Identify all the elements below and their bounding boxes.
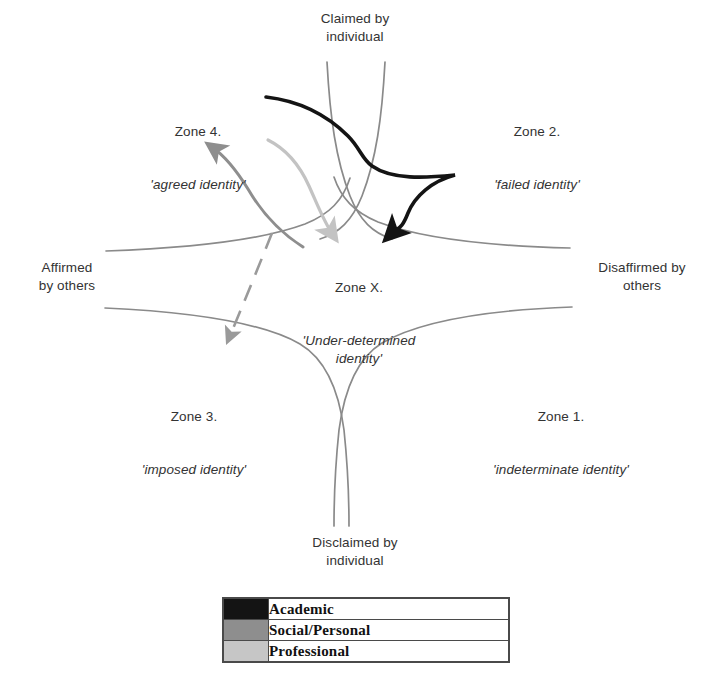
identity-zones-diagram: Claimed by individual Disclaimed by indi… [0, 0, 711, 691]
legend-label-professional: Professional [269, 641, 509, 662]
zone-2-label: Zone 2. 'failed identity' [468, 87, 606, 230]
zone-2-name: Zone 2. [468, 123, 606, 141]
axis-label-affirmed-by-others: Affirmed by others [8, 259, 126, 295]
legend-swatch-cell-social-personal [224, 620, 269, 641]
legend-table: Academic Social/Personal Professional [223, 598, 509, 662]
solid-black-swatch [224, 599, 268, 619]
dashed-trajectory-path [229, 233, 272, 338]
zone-3-name: Zone 3. [127, 408, 261, 426]
mid-grey-swatch [224, 620, 268, 640]
legend-row-social-personal: Social/Personal [224, 620, 509, 641]
zone-4-label: Zone 4. 'agreed identity' [132, 87, 264, 230]
academic-trajectory-path [266, 97, 455, 235]
zone-1-name: Zone 1. [470, 408, 652, 426]
zone-2-descriptor: 'failed identity' [468, 176, 606, 194]
axis-label-disaffirmed-by-others: Disaffirmed by others [578, 259, 706, 295]
axis-label-disclaimed-by-individual: Disclaimed by individual [275, 534, 435, 570]
zone-1-descriptor: 'indeterminate identity' [470, 461, 652, 479]
legend-row-academic: Academic [224, 599, 509, 620]
legend-swatch-cell-professional [224, 641, 269, 662]
zone-3-label: Zone 3. 'imposed identity' [127, 372, 261, 515]
professional-trajectory [268, 140, 333, 235]
academic-trajectory [266, 97, 455, 235]
legend-label-social-personal: Social/Personal [269, 620, 509, 641]
legend-label-academic: Academic [269, 599, 509, 620]
zone-1-label: Zone 1. 'indeterminate identity' [470, 372, 652, 515]
zone-x-descriptor: 'Under-determined identity' [276, 332, 442, 368]
zone-4-descriptor: 'agreed identity' [132, 176, 264, 194]
axis-label-claimed-by-individual: Claimed by individual [275, 10, 435, 46]
axis-branch-top-right [320, 62, 385, 239]
legend-swatch-cell-academic [224, 599, 269, 620]
dashed-trajectory [229, 233, 272, 338]
legend: Academic Social/Personal Professional [222, 597, 510, 663]
zone-3-descriptor: 'imposed identity' [127, 461, 261, 479]
zone-4-name: Zone 4. [132, 123, 264, 141]
zone-x-name: Zone X. [276, 279, 442, 297]
legend-row-professional: Professional [224, 641, 509, 662]
zone-x-label: Zone X. 'Under-determined identity' [276, 243, 442, 403]
professional-trajectory-path [268, 140, 333, 235]
light-grey-swatch [224, 641, 268, 661]
